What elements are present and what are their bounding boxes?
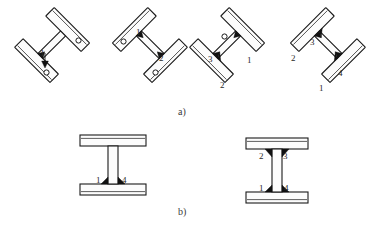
beam-four-weld-top-left <box>265 149 272 157</box>
beam-two-weld-flange-top <box>80 135 146 146</box>
stage-3-pivot-a <box>222 34 227 39</box>
beam-two-weld-flange-bottom <box>80 184 146 195</box>
beam-four-weld-label-1: 1 <box>259 183 264 193</box>
beam-four-weld-bottom-left <box>265 185 272 192</box>
stage-4-assembly <box>290 8 365 83</box>
beam-two-weld-assembly: 1 4 <box>80 135 146 195</box>
beam-two-weld-label-4: 4 <box>122 175 127 185</box>
beam-four-weld-flange-top <box>246 138 308 149</box>
beam-two-weld-web <box>108 146 118 184</box>
beam-two-weld-label-1: 1 <box>96 175 101 185</box>
stage-1-pivot-b <box>76 38 81 43</box>
stage-4-label-3: 3 <box>310 37 315 47</box>
stage-4-label-1: 1 <box>319 83 324 93</box>
stage-1-pivot-a <box>44 70 49 75</box>
stage-4-label-4: 4 <box>338 68 343 78</box>
diagram-canvas: 1 1 2 1 2 3 <box>0 0 376 230</box>
caption-a: a) <box>178 106 186 118</box>
stage-2-label-1: 1 <box>136 27 141 37</box>
beam-four-weld-web <box>272 149 282 192</box>
beam-four-weld-label-4: 4 <box>284 183 289 193</box>
beam-four-weld-label-2: 2 <box>259 151 264 161</box>
caption-b: b) <box>178 206 186 218</box>
stage-3-label-2: 2 <box>220 80 225 90</box>
beam-four-weld-label-3: 3 <box>283 151 288 161</box>
beam-four-weld-flange-bottom <box>246 192 308 203</box>
stage-3-assembly <box>190 8 265 83</box>
stage-2-label-2: 2 <box>159 53 164 63</box>
stage-2-assembly <box>112 8 187 83</box>
beam-four-weld-assembly: 2 3 1 4 <box>246 138 308 203</box>
stage-3-label-1: 1 <box>247 55 252 65</box>
stage-2-pivot-a <box>121 39 126 44</box>
technical-diagram: 1 1 2 1 2 3 <box>0 0 376 230</box>
stage-1-assembly <box>15 8 90 83</box>
stage-4-label-2: 2 <box>291 53 296 63</box>
stage-3-label-3: 3 <box>208 54 213 64</box>
stage-2-pivot-b <box>153 70 158 75</box>
stage-1-label-1: 1 <box>40 48 45 58</box>
beam-two-weld-bottom-left <box>101 177 108 184</box>
panel-a: 1 1 2 1 2 3 <box>15 8 366 118</box>
panel-b: 1 4 2 3 1 4 b) <box>80 135 308 218</box>
